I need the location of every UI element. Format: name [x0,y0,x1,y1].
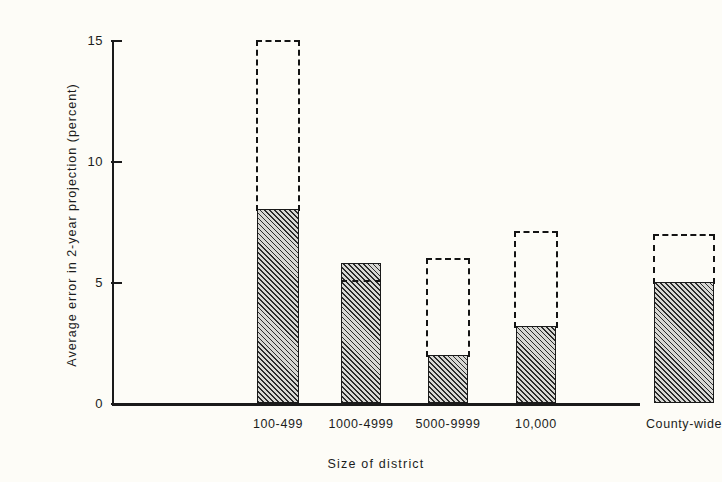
y-tick-mark [111,161,122,163]
bar-solid [257,209,299,403]
bar-dashed-range [653,234,715,284]
x-tick-label: County-wide [646,417,722,431]
x-axis-title: Size of district [112,457,640,471]
bar-solid [341,263,381,403]
plot-area: 051015 100-4991000-49995000-999910,000Co… [112,40,640,405]
y-axis-title: Average error in 2-year projection (perc… [65,35,79,415]
y-tick-mark [111,403,122,405]
bar-solid [516,326,556,403]
y-axis-line [112,40,114,405]
y-tick-label: 10 [88,154,103,169]
x-tick-label: 1000-4999 [328,417,393,431]
y-tick-mark [111,40,122,42]
bar-dashed-range [256,40,300,211]
x-tick-label: 10,000 [515,417,557,431]
bar-solid [654,282,714,403]
y-tick-mark [111,282,122,284]
bar-dashed-range [514,231,558,327]
x-tick-label: 100-499 [253,417,303,431]
y-tick-label: 0 [95,396,103,411]
bar-dashed-marker [341,280,381,282]
bar-dashed-range [426,258,470,357]
y-tick-label: 5 [95,275,103,290]
bar-solid [428,355,468,403]
x-tick-label: 5000-9999 [415,417,480,431]
y-tick-label: 15 [88,33,103,48]
x-axis-line [112,403,640,406]
